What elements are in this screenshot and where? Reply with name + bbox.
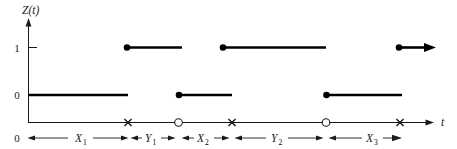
interval-y2-arrow-left	[235, 135, 243, 140]
interval-x2-arrow-right	[222, 135, 230, 140]
interval-y2-arrow-right	[316, 135, 324, 140]
interval-x3-arrow-left	[329, 135, 337, 140]
y-axis	[26, 18, 32, 123]
interval-x3-label: X	[365, 132, 374, 144]
y-tick-label-zero: 0	[14, 89, 20, 101]
x-axis-label: t	[441, 116, 445, 128]
interval-y1-arrow-left	[131, 135, 139, 140]
dot-zero-c-start	[323, 92, 330, 99]
interval-x1-arrow-right	[121, 135, 129, 140]
marker-open-circle-2	[322, 119, 330, 127]
interval-x1-subscript: 1	[83, 138, 87, 147]
segment-endpoint-dots	[124, 44, 403, 98]
interval-y2-subscript: 2	[279, 138, 283, 147]
step-function-figure: Z(t) t 1 0	[0, 0, 457, 149]
interval-y1: Y 1	[131, 132, 176, 147]
marker-open-circle-1	[175, 119, 183, 127]
y-axis-label: Z(t)	[22, 4, 39, 17]
dot-one-a-start	[124, 44, 131, 51]
interval-x2-arrow-left	[182, 135, 190, 140]
interval-y2: Y 2	[235, 132, 324, 147]
step-segments-level-one	[127, 43, 437, 52]
interval-x2-label: X	[196, 132, 205, 144]
interval-x3-subscript: 3	[374, 138, 378, 147]
interval-y1-subscript: 1	[153, 138, 157, 147]
dot-one-c-start	[396, 44, 403, 51]
interval-y1-arrow-right	[168, 135, 176, 140]
interval-x1-label: X	[74, 132, 83, 144]
y-axis-arrowhead	[26, 18, 32, 27]
dot-one-b-start	[220, 44, 227, 51]
interval-x1: X 1	[28, 132, 129, 147]
interval-x1-arrow-left	[28, 135, 36, 140]
dot-zero-b-start	[176, 92, 183, 99]
x-axis-arrowhead	[426, 120, 435, 126]
interval-x2: X 2	[182, 132, 230, 147]
interval-x3-arrow-right	[392, 135, 402, 141]
figure-canvas: Z(t) t 1 0	[0, 0, 457, 149]
segment-one-c-arrowhead	[424, 43, 436, 52]
interval-x2-subscript: 2	[205, 138, 209, 147]
interval-x3: X 3	[329, 132, 403, 147]
origin-label: 0	[14, 132, 20, 144]
y-tick-label-one: 1	[14, 42, 20, 54]
